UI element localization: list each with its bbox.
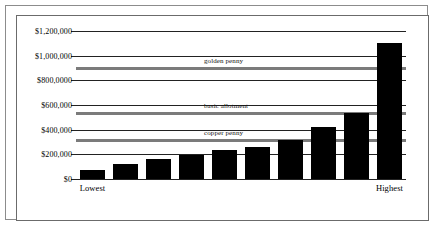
bar	[212, 150, 238, 179]
bar	[179, 155, 205, 179]
y-axis-labels: $0$200,000$400,000$600,000$800,0000$1,00…	[14, 31, 72, 179]
y-axis-tick-label: $1,200,000	[35, 27, 72, 36]
bar	[146, 159, 172, 179]
y-axis-tick-label: $0	[64, 175, 72, 184]
x-axis-tick-label: Highest	[376, 183, 403, 193]
chart-figure: $0$200,000$400,000$600,000$800,0000$1,00…	[0, 0, 433, 225]
bar	[245, 147, 271, 179]
x-axis-labels: LowestHighest	[76, 183, 406, 199]
bar	[377, 43, 403, 179]
bar-series	[76, 31, 406, 179]
bar	[113, 164, 139, 179]
bar	[344, 113, 370, 179]
bar	[80, 170, 106, 179]
y-axis-tick-label: $800,0000	[37, 76, 72, 85]
bar	[278, 140, 304, 179]
y-axis-tick-label: $200,000	[41, 150, 72, 159]
y-axis-tick-label: $1,000,000	[35, 51, 72, 60]
y-axis-tick-label: $600,000	[41, 101, 72, 110]
bar	[311, 127, 337, 179]
y-axis-tick-label: $400,000	[41, 125, 72, 134]
plot-area: golden pennybasic allotmentcopper penny	[76, 31, 406, 179]
gridline	[76, 179, 406, 180]
x-axis-tick-label: Lowest	[80, 183, 106, 193]
